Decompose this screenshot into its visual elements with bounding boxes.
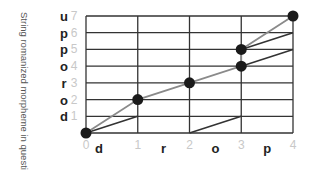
alignment-segment <box>86 116 138 133</box>
y-letter-label: u <box>60 9 68 24</box>
y-letter-label: d <box>60 109 68 124</box>
x-tick-label: 2 <box>186 138 193 152</box>
alignment-segment <box>241 33 293 50</box>
y-tick-label: 6 <box>71 26 78 40</box>
x-tick-label: 3 <box>238 138 245 152</box>
x-tick-label: 4 <box>290 138 297 152</box>
y-tick-label: 4 <box>71 59 78 73</box>
y-tick-label: 1 <box>71 109 78 123</box>
x-letter-label: d <box>95 141 103 156</box>
x-letter-label: p <box>263 141 271 156</box>
y-letter-label: o <box>60 93 68 108</box>
y-tick-label: 7 <box>71 9 78 23</box>
y-letter-label: p <box>60 42 68 57</box>
data-point <box>236 61 247 72</box>
y-letter-label: r <box>61 76 66 91</box>
y-tick-label: 2 <box>71 93 78 107</box>
y-letter-label: o <box>60 59 68 74</box>
x-tick-label: 0 <box>83 138 90 152</box>
alignment-chart: 1234567doroppu01234drop <box>0 0 313 170</box>
x-tick-label: 1 <box>134 138 141 152</box>
y-letter-label: p <box>60 26 68 41</box>
alignment-segment <box>241 49 293 66</box>
data-point <box>184 77 195 88</box>
x-letter-label: o <box>211 141 219 156</box>
y-tick-label: 5 <box>71 42 78 56</box>
y-tick-label: 3 <box>71 76 78 90</box>
data-point <box>81 128 92 139</box>
data-point <box>236 44 247 55</box>
data-point <box>132 94 143 105</box>
x-letter-label: r <box>161 141 166 156</box>
alignment-segment <box>190 116 242 133</box>
data-point <box>288 11 299 22</box>
